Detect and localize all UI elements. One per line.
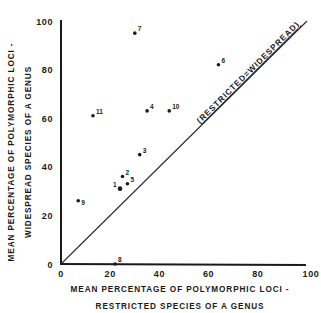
point-label: 1: [113, 181, 117, 188]
x-axis-label-line2: RESTRICTED SPECIES OF A GENUS: [96, 302, 265, 311]
data-point-9: 9: [76, 199, 85, 206]
point-marker: [91, 114, 95, 118]
data-points: 1234567891011: [76, 25, 225, 266]
point-label: 6: [221, 57, 225, 64]
y-tick-40: 40: [42, 162, 53, 172]
y-tick-60: 60: [42, 114, 53, 124]
y-tick-labels: 020406080100: [36, 17, 53, 270]
point-label: 10: [172, 103, 180, 110]
data-point-7: 7: [133, 25, 142, 35]
point-marker: [167, 109, 171, 113]
x-tick-60: 60: [203, 269, 214, 279]
y-tick-80: 80: [42, 65, 53, 75]
data-point-4: 4: [145, 103, 154, 113]
point-marker: [217, 63, 221, 67]
diagonal-label: (RESTRICTED=WIDESPREAD): [195, 20, 301, 126]
x-tick-80: 80: [252, 269, 263, 279]
point-marker: [138, 153, 142, 157]
point-label: 9: [81, 199, 85, 206]
y-tick-20: 20: [42, 211, 53, 221]
point-label: 4: [150, 103, 154, 110]
point-marker: [76, 199, 80, 203]
point-marker: [118, 186, 123, 191]
x-tick-100: 100: [303, 269, 320, 279]
y-axis-label-line1: MEAN PERCENTAGE OF POLYMORPHIC LOCI -: [7, 43, 16, 262]
point-label: 3: [143, 147, 147, 154]
point-marker: [126, 182, 130, 186]
y-tick-100: 100: [36, 17, 53, 27]
point-label: 7: [138, 25, 142, 32]
data-point-5: 5: [126, 176, 135, 186]
x-tick-40: 40: [154, 269, 165, 279]
point-marker: [133, 31, 137, 35]
x-tick-0: 0: [58, 269, 64, 279]
x-tick-20: 20: [105, 269, 116, 279]
point-marker: [145, 109, 149, 113]
point-marker: [113, 262, 117, 266]
data-point-11: 11: [91, 108, 103, 118]
data-point-1: 1: [113, 181, 122, 191]
data-point-3: 3: [138, 147, 147, 157]
x-axis-line: [60, 264, 306, 265]
data-point-10: 10: [167, 103, 179, 113]
x-tick-labels: 020406080100: [58, 269, 319, 279]
point-label: 8: [118, 256, 122, 263]
y-tick-0: 0: [47, 260, 53, 270]
data-point-2: 2: [121, 169, 130, 179]
point-label: 11: [96, 108, 103, 115]
point-label: 2: [126, 169, 130, 176]
data-point-6: 6: [217, 57, 226, 67]
scatter-chart: 020406080100 020406080100 1234567891011 …: [0, 0, 321, 313]
x-axis-label-line1: MEAN PERCENTAGE OF POLYMORPHIC LOCI -: [71, 285, 290, 294]
equality-reference-line: [61, 21, 307, 264]
point-marker: [121, 175, 125, 179]
y-axis-label-line2: WIDESPREAD SPECIES OF A GENUS: [24, 66, 33, 238]
point-label: 5: [130, 176, 134, 183]
